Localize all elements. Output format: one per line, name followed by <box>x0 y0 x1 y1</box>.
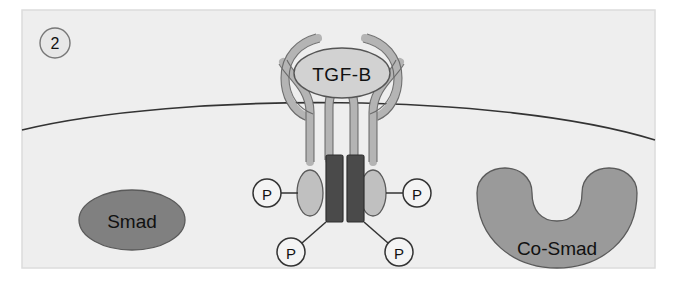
kinase-domain-left-bar <box>326 155 343 222</box>
phosphate-label: P <box>394 245 404 262</box>
phosphate-right-lower: P <box>385 238 413 266</box>
panel-number-badge: 2 <box>40 28 70 58</box>
panel-number-label: 2 <box>51 35 60 52</box>
phosphate-left-outer: P <box>253 179 281 207</box>
phosphate-right-outer: P <box>403 179 431 207</box>
receptor-domain-left-oval <box>297 170 323 216</box>
phosphate-label: P <box>262 186 272 203</box>
figure-panel: 2 <box>0 0 683 287</box>
ligand-label: TGF-B <box>312 64 372 85</box>
co-smad-label: Co-Smad <box>517 238 597 259</box>
smad-label: Smad <box>107 211 157 232</box>
phosphate-label: P <box>412 186 422 203</box>
tgf-beta-signaling-diagram: 2 <box>0 0 683 287</box>
smad-protein: Smad <box>79 190 185 250</box>
phosphate-label: P <box>286 245 296 262</box>
kinase-domain-right-bar <box>347 155 364 222</box>
phosphate-left-lower: P <box>277 238 305 266</box>
